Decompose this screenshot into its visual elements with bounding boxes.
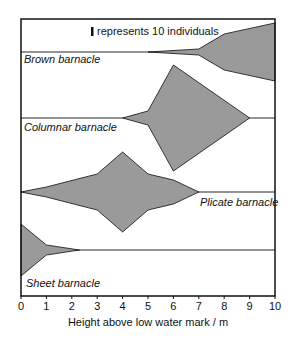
species-labels: Brown barnacleColumnar barnaclePlicate b… bbox=[24, 53, 278, 289]
columnar-barnacle-label: Columnar barnacle bbox=[24, 121, 117, 133]
x-tick-label: 1 bbox=[43, 300, 49, 312]
x-tick-label: 9 bbox=[247, 300, 253, 312]
x-tick-label: 0 bbox=[18, 300, 24, 312]
kite-diagram: Brown barnacleColumnar barnaclePlicate b… bbox=[0, 0, 294, 344]
columnar-barnacle-kite bbox=[123, 65, 250, 171]
x-tick-label: 6 bbox=[170, 300, 176, 312]
x-tick-label: 10 bbox=[269, 300, 281, 312]
plicate-barnacle-label: Plicate barnacle bbox=[200, 196, 278, 208]
scale-bar-icon bbox=[91, 27, 94, 36]
x-tick-label: 5 bbox=[145, 300, 151, 312]
x-tick-label: 4 bbox=[120, 300, 126, 312]
legend-text: represents 10 individuals bbox=[97, 25, 219, 37]
brown-barnacle-label: Brown barnacle bbox=[24, 53, 100, 65]
transect-baselines bbox=[21, 52, 275, 250]
sheet-barnacle-kite bbox=[21, 224, 79, 276]
x-tick-label: 7 bbox=[196, 300, 202, 312]
x-tick-label: 3 bbox=[94, 300, 100, 312]
x-tick-label: 8 bbox=[221, 300, 227, 312]
x-axis-ticks: 012345678910 bbox=[18, 296, 281, 312]
legend-key: represents 10 individuals bbox=[91, 25, 219, 37]
x-axis-title: Height above low water mark / m bbox=[68, 316, 228, 328]
x-tick-label: 2 bbox=[69, 300, 75, 312]
sheet-barnacle-label: Sheet barnacle bbox=[26, 277, 100, 289]
